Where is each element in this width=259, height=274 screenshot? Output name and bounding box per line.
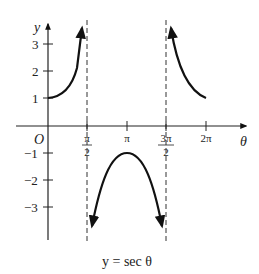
- y-tick-label-neg1: −1: [24, 146, 38, 161]
- y-tick-label-2: 2: [32, 64, 39, 79]
- sec-branch-2: [92, 153, 162, 226]
- sec-graph: y θ O 3 2 1 −1 −2 −3 π 2 π 3π 2 2π y = s…: [0, 0, 259, 274]
- sec-branch-1: [48, 28, 82, 98]
- x-tick-label-3pi-over-2-den: 2: [163, 146, 169, 158]
- y-tick-label-3: 3: [32, 37, 39, 52]
- sec-branch-3: [171, 28, 206, 98]
- chart-title: y = sec θ: [102, 254, 152, 269]
- origin-label: O: [34, 132, 44, 147]
- x-tick-label-pi-over-2-den: 2: [84, 146, 90, 158]
- x-tick-label-3pi-over-2-num: 3π: [160, 132, 172, 144]
- y-axis-label: y: [32, 20, 41, 35]
- x-tick-label-pi-over-2-num: π: [84, 132, 90, 144]
- x-tick-label-pi: π: [124, 132, 130, 144]
- y-tick-label-neg3: −3: [24, 200, 38, 215]
- y-tick-label-1: 1: [32, 91, 39, 106]
- x-axis-label: θ: [240, 134, 247, 149]
- y-tick-label-neg2: −2: [24, 173, 38, 188]
- x-tick-label-2pi: 2π: [200, 132, 212, 144]
